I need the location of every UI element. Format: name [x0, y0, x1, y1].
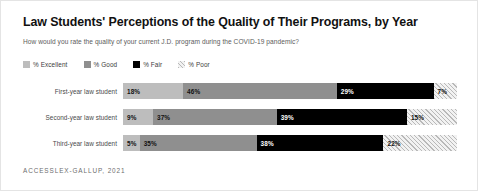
chart-source-note: ACCESSLEX-GALLUP, 2021: [23, 167, 125, 174]
bar-segment-poor: 22%: [383, 135, 456, 151]
bar-segment-poor: 15%: [407, 109, 457, 125]
legend-swatch-fair-icon: [133, 61, 140, 68]
chart-legend: % Excellent % Good % Fair % Poor: [23, 61, 210, 68]
chart-plot-area: First-year law student18%46%29%7%Second-…: [23, 83, 457, 151]
bar-segment-value: 15%: [411, 114, 424, 121]
bar-segment-good: 35%: [140, 135, 257, 151]
bar-segment-fair: 29%: [337, 83, 434, 99]
chart-row: Third-year law student5%35%38%22%: [23, 135, 457, 151]
legend-item-poor[interactable]: % Poor: [178, 61, 210, 68]
legend-item-good[interactable]: % Good: [84, 61, 118, 68]
legend-item-excellent[interactable]: % Excellent: [23, 61, 68, 68]
legend-label-fair: % Fair: [143, 61, 162, 68]
bar-segment-value: 9%: [127, 114, 136, 121]
bar-segment-value: 18%: [127, 88, 140, 95]
bar-segment-value: 29%: [341, 88, 354, 95]
legend-label-poor: % Poor: [188, 61, 210, 68]
bar-segment-value: 35%: [144, 140, 157, 147]
bar-segment-value: 22%: [387, 140, 400, 147]
chart-row-label: First-year law student: [23, 88, 123, 95]
bar-segment-poor: 7%: [434, 83, 457, 99]
legend-label-excellent: % Excellent: [33, 61, 68, 68]
legend-swatch-poor-icon: [178, 61, 185, 68]
chart-figure: Law Students' Perceptions of the Quality…: [0, 0, 478, 191]
bar-segment-value: 38%: [261, 140, 274, 147]
bar-segment-value: 5%: [127, 140, 136, 147]
legend-swatch-excellent-icon: [23, 61, 30, 68]
chart-row-label: Second-year law student: [23, 114, 123, 121]
bar-segment-fair: 38%: [257, 135, 384, 151]
bar-segment-value: 39%: [281, 114, 294, 121]
stacked-bar: 5%35%38%22%: [123, 135, 457, 151]
legend-swatch-good-icon: [84, 61, 91, 68]
chart-row-label: Third-year law student: [23, 140, 123, 147]
bar-segment-excellent: 5%: [123, 135, 140, 151]
legend-label-good: % Good: [94, 61, 118, 68]
legend-item-fair[interactable]: % Fair: [133, 61, 162, 68]
chart-subtitle: How would you rate the quality of your c…: [23, 37, 453, 46]
bar-segment-fair: 39%: [277, 109, 407, 125]
bar-segment-value: 37%: [157, 114, 170, 121]
bar-segment-value: 46%: [187, 88, 200, 95]
chart-row: Second-year law student9%37%39%15%: [23, 109, 457, 125]
chart-title: Law Students' Perceptions of the Quality…: [23, 15, 453, 29]
bar-segment-excellent: 9%: [123, 109, 153, 125]
bar-segment-excellent: 18%: [123, 83, 183, 99]
stacked-bar: 9%37%39%15%: [123, 109, 457, 125]
stacked-bar: 18%46%29%7%: [123, 83, 457, 99]
chart-row: First-year law student18%46%29%7%: [23, 83, 457, 99]
bar-segment-value: 7%: [438, 88, 447, 95]
bar-segment-good: 46%: [183, 83, 337, 99]
bar-segment-good: 37%: [153, 109, 277, 125]
